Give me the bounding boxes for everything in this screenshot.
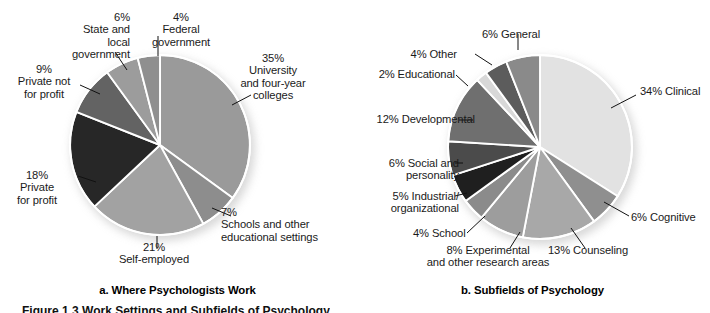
slice-label-cognitive: 6% Cognitive	[631, 211, 710, 223]
slice-label-self-employed: 21% Self-employed	[94, 241, 214, 266]
figure-container: 35% University and four-year colleges 7%…	[0, 0, 710, 313]
slice-label-school: 4% School	[413, 227, 493, 239]
slice-label-developmental: 12% Developmental	[355, 113, 475, 125]
slice-label-clinical: 34% Clinical	[640, 85, 710, 97]
slice-label-private-not-for-profit: 9% Private not for profit	[2, 63, 86, 100]
pie-chart-where-psychologists-work: 35% University and four-year colleges 7%…	[0, 0, 355, 313]
slice-label-state-local-government: 6% State and local government	[24, 11, 130, 61]
slice-label-industrial-organizational: 5% Industrial/ organizational	[355, 190, 459, 215]
leader-line	[456, 75, 468, 86]
slice-label-university: 35% University and four-year colleges	[213, 52, 333, 102]
panel-a-caption: a. Where Psychologists Work	[0, 284, 355, 296]
slice-label-social-personality: 6% Social and personality	[355, 157, 459, 182]
slice-label-federal-government: 4% Federal government	[136, 11, 226, 48]
slice-label-experimental: 8% Experimental and other research areas	[413, 244, 563, 269]
slice-label-counseling: 13% Counseling	[548, 244, 648, 256]
leader-line	[475, 54, 492, 65]
pie-chart-subfields-of-psychology: 34% Clinical 6% Cognitive 13% Counseling…	[355, 0, 710, 313]
slice-label-private-for-profit: 18% Private for profit	[2, 169, 72, 206]
panel-b-caption: b. Subfields of Psychology	[355, 284, 710, 296]
slice-label-general: 6% General	[463, 28, 559, 40]
slice-label-other: 4% Other	[379, 48, 457, 60]
slice-label-educational: 2% Educational	[355, 68, 455, 80]
figure-caption: Figure 1.3 Work Settings and Subfields o…	[22, 304, 330, 313]
slice-label-schools: 7% Schools and other educational setting…	[221, 206, 355, 243]
pie-b-svg	[355, 0, 710, 285]
